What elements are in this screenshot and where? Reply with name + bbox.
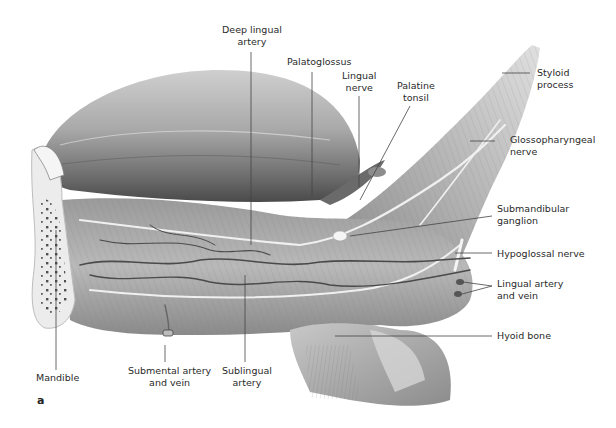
submandibular-ganglion-shape <box>333 231 347 241</box>
label-submandibular-ganglion: Submandibular ganglion <box>497 203 569 227</box>
lingual-vein-cut <box>454 291 462 297</box>
label-submental-artery-and-vein: Submental artery and vein <box>128 365 211 389</box>
label-deep-lingual-artery: Deep lingual artery <box>222 24 282 48</box>
submental-vessel-cut <box>163 330 173 336</box>
label-styloid-process: Styloid process <box>537 67 574 91</box>
label-mandible: Mandible <box>36 372 79 384</box>
label-palatine-tonsil: Palatine tonsil <box>397 80 435 104</box>
label-lingual-artery-and-vein: Lingual artery and vein <box>497 278 563 302</box>
label-lingual-nerve: Lingual nerve <box>342 70 376 94</box>
label-hypoglossal-nerve: Hypoglossal nerve <box>497 248 585 260</box>
label-hyoid-bone: Hyoid bone <box>497 330 551 342</box>
label-sublingual-artery: Sublingual artery <box>222 365 272 389</box>
panel-letter: a <box>37 394 44 407</box>
label-glossopharyngeal-nerve: Glossopharyngeal nerve <box>510 134 595 158</box>
lingual-artery-cut <box>456 279 464 285</box>
label-palatoglossus: Palatoglossus <box>287 56 351 68</box>
